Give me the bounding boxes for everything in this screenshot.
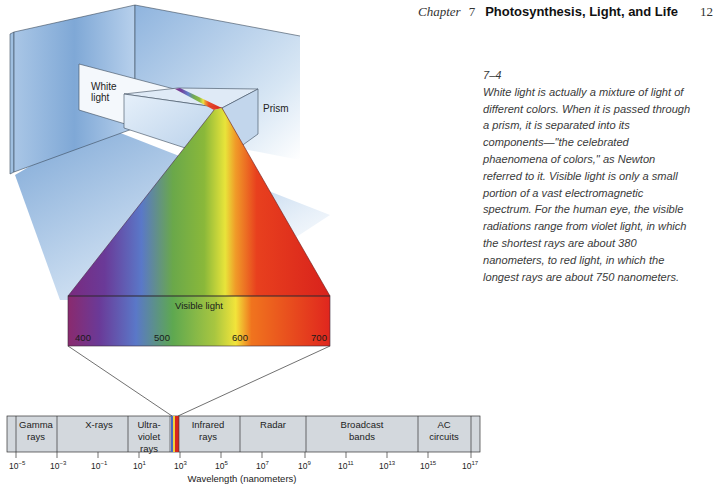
svg-text:103: 103 xyxy=(174,460,187,471)
svg-text:105: 105 xyxy=(215,460,228,471)
axis-tick-labels: 10−5 10−3 10−1 101 103 105 107 109 1011 … xyxy=(9,460,479,471)
band-infrared-line1: Infrared xyxy=(192,419,225,430)
visible-light-label: Visible light xyxy=(175,300,223,311)
band-uv-line1: Ultra- xyxy=(137,419,160,430)
svg-text:107: 107 xyxy=(256,460,269,471)
left-wall-edge xyxy=(10,32,14,174)
white-light-label-line2: light xyxy=(91,92,110,103)
band-broadcast-line2: bands xyxy=(349,431,375,442)
svg-text:1015: 1015 xyxy=(420,460,437,471)
band-infrared-line2: rays xyxy=(199,431,217,442)
connector-left xyxy=(68,346,172,416)
svg-text:1011: 1011 xyxy=(338,460,354,471)
band-ac-line2: circuits xyxy=(429,431,459,442)
svg-text:1013: 1013 xyxy=(379,460,396,471)
visible-tick-700: 700 xyxy=(311,332,327,343)
svg-text:10−5: 10−5 xyxy=(9,460,26,471)
svg-text:109: 109 xyxy=(298,460,311,471)
band-ac-line1: AC xyxy=(437,419,450,430)
band-uv-line3: rays xyxy=(140,443,158,454)
visible-tick-400: 400 xyxy=(75,332,91,343)
band-xrays: X-rays xyxy=(85,419,113,430)
svg-text:10−1: 10−1 xyxy=(91,460,108,471)
svg-text:1017: 1017 xyxy=(462,460,479,471)
connector-right xyxy=(178,346,330,416)
band-uv-line2: violet xyxy=(138,431,161,442)
visible-tick-500: 500 xyxy=(154,332,170,343)
em-spectrum-bar xyxy=(7,416,480,458)
page-number: 12 xyxy=(700,4,713,19)
band-radar: Radar xyxy=(260,419,286,430)
wavelength-axis-label: Wavelength (nanometers) xyxy=(188,473,297,484)
prism-label: Prism xyxy=(263,103,289,114)
white-light-label-line1: White xyxy=(91,81,117,92)
svg-text:101: 101 xyxy=(133,460,146,471)
band-broadcast-line1: Broadcast xyxy=(341,419,384,430)
band-gamma-line2: rays xyxy=(27,431,45,442)
axis-ticks xyxy=(57,452,428,458)
band-gamma-line1: Gamma xyxy=(19,419,54,430)
visible-tick-600: 600 xyxy=(232,332,248,343)
svg-text:10−3: 10−3 xyxy=(50,460,67,471)
